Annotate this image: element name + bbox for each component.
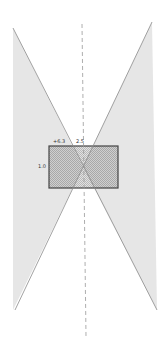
label-left: 1.0 (38, 164, 46, 169)
diagram-canvas (0, 0, 167, 338)
label-top-right: 2.5 (76, 139, 84, 144)
label-top-left: +6.3 (53, 139, 65, 144)
